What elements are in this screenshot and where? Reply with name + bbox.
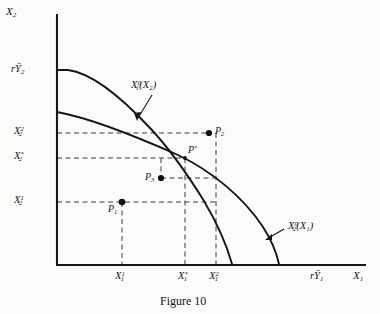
x-tick-x1-superscript-1: X11 xyxy=(115,271,124,283)
curve-label-pointers xyxy=(138,95,284,238)
figure-10-container: X2 X1 rȲ2 X22 X*2 X12 X11 X*1 X21 rȲ1 X0… xyxy=(0,0,380,314)
point-marker-p1 xyxy=(119,199,126,206)
point-label-p-star: P* xyxy=(188,145,197,155)
curve-label-x2-zero-of-x1: X02(X₁) xyxy=(288,221,313,233)
y-tick-x2-superscript-1: X12 xyxy=(14,195,22,207)
y-tick-r-ybar-2: rȲ2 xyxy=(11,64,24,76)
curve-x2-zero-of-x1-path xyxy=(57,112,279,264)
point-label-p1: P1 xyxy=(108,204,117,215)
point-label-p2: P2 xyxy=(215,126,224,137)
point-label-p3: P3 xyxy=(145,172,154,183)
curve-x1-zero-of-x2-path xyxy=(57,70,232,264)
x-tick-x1-superscript-2: X21 xyxy=(209,271,218,283)
plot-points xyxy=(119,130,212,205)
curve-label-arrowheads xyxy=(134,112,272,240)
x-tick-r-ybar-1: rȲ1 xyxy=(310,271,323,283)
point-marker-p-star xyxy=(183,156,187,160)
x-tick-x1-star: X*1 xyxy=(178,271,187,283)
y-tick-x2-star: X*2 xyxy=(14,151,22,163)
guide-lines xyxy=(57,70,216,266)
reaction-curves-plot xyxy=(0,0,380,314)
x-axis-label: X1 xyxy=(353,270,363,283)
figure-caption: Figure 10 xyxy=(160,294,206,309)
point-marker-p2 xyxy=(206,130,212,136)
y-axis-label: X2 xyxy=(6,6,16,19)
pointer-to-curve-x1 xyxy=(138,95,152,118)
axes xyxy=(56,14,366,265)
curve-label-x1-zero-of-x2: X01(X₂) xyxy=(131,80,156,92)
y-tick-x2-superscript-2: X22 xyxy=(14,126,22,138)
point-marker-p3 xyxy=(158,175,164,181)
